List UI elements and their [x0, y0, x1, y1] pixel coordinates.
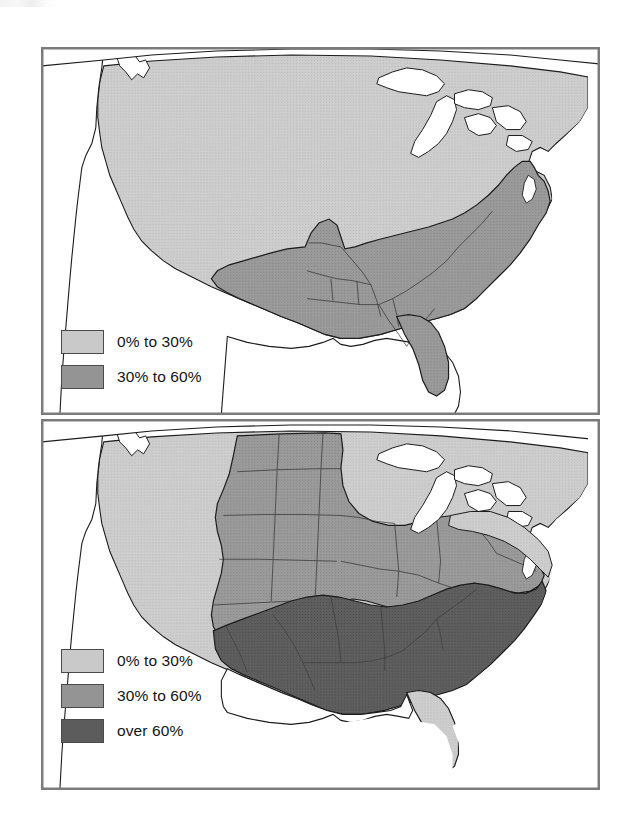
legend-lower: 0% to 30% 30% to 60% over 60% [61, 648, 202, 753]
gulf-water-fill-lower [217, 714, 452, 789]
scan-artifact [0, 0, 58, 7]
legend-swatch-low [61, 649, 104, 673]
legend-item-high: over 60% [61, 718, 202, 743]
legend-item-mid: 30% to 60% [61, 364, 202, 389]
legend-item-mid: 30% to 60% [61, 683, 202, 708]
legend-item-low: 0% to 30% [61, 648, 202, 673]
legend-label-mid: 30% to 60% [117, 368, 202, 386]
legend-swatch-mid [61, 684, 104, 708]
upper-map-panel: 0% to 30% 30% to 60% [41, 47, 600, 415]
lower-map-panel: 0% to 30% 30% to 60% over 60% [41, 419, 600, 790]
legend-item-low: 0% to 30% [61, 329, 202, 354]
legend-label-high: over 60% [117, 722, 183, 740]
legend-swatch-low [61, 330, 104, 354]
legend-label-low: 0% to 30% [117, 333, 193, 351]
legend-label-low: 0% to 30% [117, 652, 193, 670]
legend-swatch-mid [61, 365, 104, 389]
legend-swatch-high [61, 719, 104, 743]
legend-upper: 0% to 30% 30% to 60% [61, 329, 202, 399]
legend-label-mid: 30% to 60% [117, 687, 202, 705]
